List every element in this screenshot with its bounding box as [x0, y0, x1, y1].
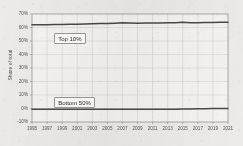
y-axis-tick-label: 0%	[12, 106, 28, 111]
y-axis-tick-label: 70%	[12, 11, 28, 16]
y-axis-tick-label: 20%	[12, 79, 28, 84]
series-callout-label: Top 10%	[54, 33, 86, 44]
y-axis-tick-label: 40%	[12, 52, 28, 57]
line-chart-canvas	[0, 0, 243, 146]
y-axis-tick-label: 10%	[12, 92, 28, 97]
series-line	[32, 109, 228, 110]
y-axis-tick-label: -10%	[12, 119, 28, 124]
series-callout-label: Bottom 50%	[54, 97, 95, 108]
y-axis-tick-label: 50%	[12, 38, 28, 43]
x-axis-tick-label: 2021	[218, 126, 238, 131]
chart-figure: Share of total 70%60%50%40%30%20%10%0%-1…	[0, 0, 243, 146]
y-axis-tick-label: 30%	[12, 65, 28, 70]
y-axis-tick-label: 60%	[12, 25, 28, 30]
